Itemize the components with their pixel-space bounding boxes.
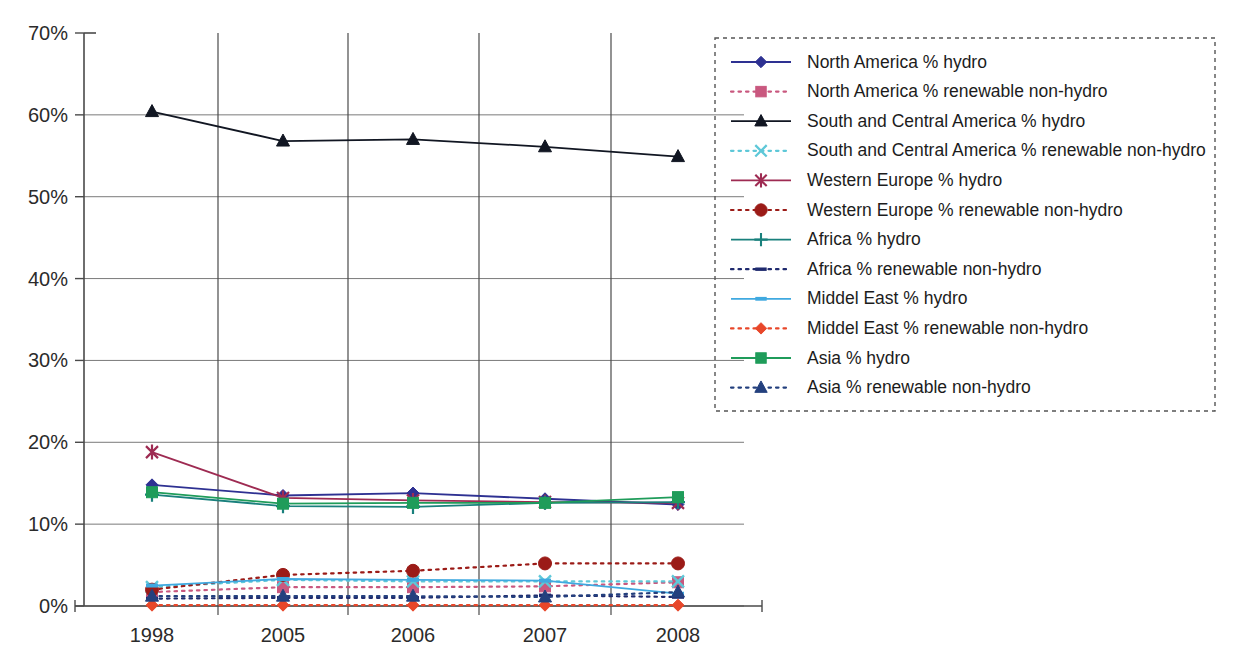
y-axis-tick-label: 20% <box>28 431 68 453</box>
marker-square <box>756 86 766 96</box>
marker-star <box>146 445 158 460</box>
legend-item[interactable]: North America % renewable non-hydro <box>731 81 1108 101</box>
marker-line <box>407 578 419 582</box>
series-line <box>152 112 678 157</box>
x-axis-tick-label: 2006 <box>391 624 436 646</box>
legend-item[interactable]: South and Central America % renewable no… <box>731 140 1206 160</box>
marker-diamond <box>672 599 684 611</box>
legend-item[interactable]: North America % hydro <box>731 52 987 72</box>
marker-dash <box>755 267 766 270</box>
y-axis-tick-label: 50% <box>28 186 68 208</box>
gridlines: 0%10%20%30%40%50%60%70% <box>28 22 744 617</box>
y-axis-tick-label: 30% <box>28 349 68 371</box>
legend-item[interactable]: Asia % renewable non-hydro <box>731 377 1031 397</box>
legend-item-label: Middel East % hydro <box>807 288 968 308</box>
legend-item-label: North America % hydro <box>807 52 987 72</box>
marker-circle <box>539 557 552 570</box>
legend-item-label: Western Europe % renewable non-hydro <box>807 200 1123 220</box>
legend-item-label: Africa % hydro <box>807 229 921 249</box>
x-axis-tick-label: 2008 <box>656 624 701 646</box>
y-axis-tick-label: 60% <box>28 104 68 126</box>
legend-item-label: South and Central America % hydro <box>807 111 1085 131</box>
marker-triangle <box>146 105 159 117</box>
legend-item[interactable]: Middel East % hydro <box>731 288 968 308</box>
marker-square <box>408 497 419 508</box>
y-axis-tick-label: 0% <box>39 595 68 617</box>
legend-item-label: Africa % renewable non-hydro <box>807 259 1041 279</box>
marker-square <box>278 498 289 509</box>
marker-line <box>755 297 766 301</box>
marker-triangle <box>407 132 420 144</box>
x-axis-tick-label: 2005 <box>261 624 306 646</box>
legend-item-label: Asia % renewable non-hydro <box>807 377 1031 397</box>
x-axis-tick-label: 2007 <box>523 624 568 646</box>
legend-item[interactable]: Middel East % renewable non-hydro <box>731 318 1088 338</box>
marker-circle <box>672 557 685 570</box>
marker-diamond <box>755 323 766 334</box>
marker-triangle <box>755 115 767 126</box>
marker-line <box>277 577 289 581</box>
marker-square <box>673 492 684 503</box>
y-axis-tick-label: 10% <box>28 513 68 535</box>
chart-root: 0%10%20%30%40%50%60%70%19982005200620072… <box>0 0 1235 658</box>
marker-circle <box>407 564 420 577</box>
legend-item-label: South and Central America % renewable no… <box>807 140 1206 160</box>
legend-item[interactable]: South and Central America % hydro <box>731 111 1085 131</box>
legend-item-label: Western Europe % hydro <box>807 170 1002 190</box>
marker-line <box>146 584 158 588</box>
marker-triangle <box>755 381 767 392</box>
legend-item[interactable]: Asia % hydro <box>731 348 910 368</box>
legend-item[interactable]: Africa % hydro <box>731 229 921 249</box>
marker-square <box>756 353 766 363</box>
line-chart: 0%10%20%30%40%50%60%70%19982005200620072… <box>0 0 1235 658</box>
y-axis-tick-label: 70% <box>28 22 68 44</box>
marker-diamond <box>755 56 766 67</box>
legend-item-label: North America % renewable non-hydro <box>807 81 1108 101</box>
legend-item-label: Middel East % renewable non-hydro <box>807 318 1088 338</box>
marker-square <box>147 487 158 498</box>
marker-square <box>540 497 551 508</box>
marker-line <box>539 579 551 583</box>
x-axis-tick-label: 1998 <box>130 624 175 646</box>
marker-circle <box>755 204 767 216</box>
series-2 <box>146 105 685 162</box>
legend-item[interactable]: Western Europe % hydro <box>731 170 1002 190</box>
legend-item[interactable]: Africa % renewable non-hydro <box>731 259 1041 279</box>
marker-plus <box>754 233 767 246</box>
y-axis-tick-label: 40% <box>28 268 68 290</box>
legend: North America % hydroNorth America % ren… <box>715 38 1215 411</box>
legend-item[interactable]: Western Europe % renewable non-hydro <box>731 200 1123 220</box>
legend-item-label: Asia % hydro <box>807 348 910 368</box>
